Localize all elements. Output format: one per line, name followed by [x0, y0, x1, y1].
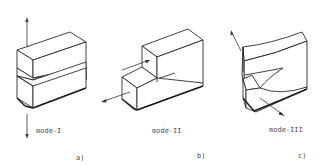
mode-ii-label: mode-II: [152, 128, 182, 135]
panel-b-sublabel: b): [197, 153, 205, 160]
down-arrow-icon: [25, 114, 28, 139]
mode-iii-label: mode-III: [269, 127, 303, 134]
panel-c-sublabel: c): [298, 153, 306, 160]
panel-c-mode-iii: [231, 30, 308, 116]
mode-i-label: mode-I: [36, 128, 61, 135]
tear-arrow-up-icon: [231, 30, 242, 51]
panel-a-sublabel: a): [76, 155, 84, 162]
panel-a-mode-i: [17, 17, 86, 139]
fracture-modes-diagram: [0, 0, 320, 166]
panel-b-mode-ii: [101, 29, 203, 110]
